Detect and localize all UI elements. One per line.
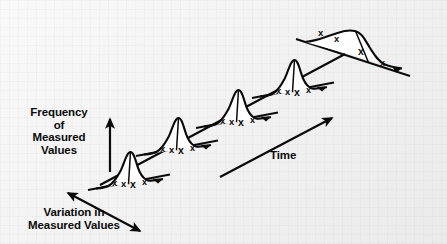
sample-mark-x: x	[121, 178, 127, 189]
sample-mark-x: x	[306, 85, 311, 95]
sample-mark-x: x	[169, 144, 175, 155]
sample-mark-x: x	[276, 85, 282, 96]
sample-mark-x: x	[380, 58, 385, 68]
distribution-2: x x x x	[136, 118, 218, 156]
sample-mark-x: x	[358, 45, 364, 57]
sample-mark-x: x	[178, 144, 184, 156]
sample-mark-x: x	[334, 33, 340, 44]
process-variation-figure: x x x x x x x x x x x x	[0, 0, 447, 244]
time-axis-arrow	[220, 118, 332, 177]
sample-mark-x: x	[238, 116, 244, 128]
frequency-axis-label: Frequency of Measured Values	[13, 106, 105, 156]
sample-mark-x: x	[294, 86, 300, 98]
sample-mark-x: x	[229, 116, 235, 127]
sample-mark-x: x	[160, 143, 166, 154]
time-axis-label: Time	[270, 149, 310, 162]
variation-axis-label: Variation in Measured Values	[8, 206, 140, 231]
sample-mark-x: x	[318, 27, 324, 38]
sample-mark-x: x	[142, 177, 147, 187]
sample-mark-x: x	[250, 115, 255, 125]
sample-mark-x: x	[130, 178, 136, 190]
sample-mark-x: x	[190, 143, 195, 153]
distribution-5: x x x x	[296, 27, 410, 76]
sample-mark-x: x	[112, 177, 118, 188]
sample-mark-x: x	[285, 86, 291, 97]
sample-mark-x: x	[220, 115, 226, 126]
